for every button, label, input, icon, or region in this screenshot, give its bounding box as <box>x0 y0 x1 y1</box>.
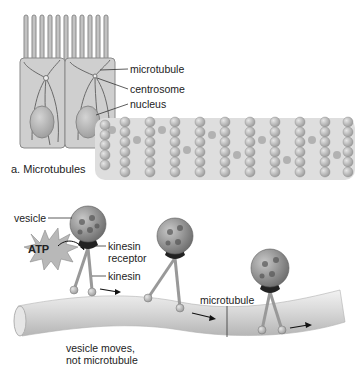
label-kinesin-receptor-line1: kinesin <box>108 240 141 252</box>
label-centrosome: centrosome <box>130 83 185 95</box>
vesicle-2 <box>144 218 193 312</box>
microtubule-cylinder <box>95 117 355 180</box>
label-vesicle: vesicle <box>14 212 46 224</box>
note-line2: not microtubule <box>66 354 138 366</box>
note-line1: vesicle moves, <box>66 342 135 354</box>
vesicle-1 <box>70 206 106 296</box>
label-microtubule-a: microtubule <box>130 63 184 75</box>
diagram-canvas <box>0 0 355 368</box>
label-kinesin-receptor-line2: receptor <box>108 252 147 264</box>
label-kinesin: kinesin <box>108 270 141 282</box>
label-atp: ATP <box>28 243 49 255</box>
label-microtubule-b: microtubule <box>200 294 254 306</box>
label-nucleus: nucleus <box>130 98 166 110</box>
microtubule-track <box>18 290 345 336</box>
panel-a-caption: a. Microtubules <box>11 163 86 175</box>
